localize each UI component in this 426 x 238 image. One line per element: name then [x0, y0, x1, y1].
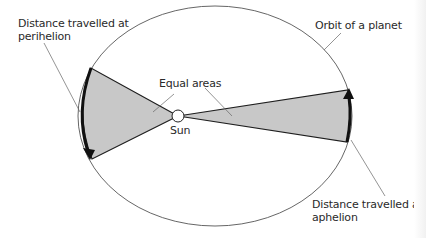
page-edge-shadow — [414, 0, 426, 238]
perihelion-label-line2: perihelion — [18, 31, 71, 43]
aphelion-sector — [178, 90, 350, 142]
leader-aphelion — [351, 140, 385, 196]
sun-icon — [172, 110, 184, 122]
equal-areas-label: Equal areas — [159, 78, 221, 90]
leader-orbit — [324, 33, 341, 50]
leader-perihelion — [44, 43, 80, 112]
orbit-label: Orbit of a planet — [315, 20, 402, 32]
perihelion-label-line1: Distance travelled at — [18, 18, 129, 30]
sun-label: Sun — [170, 125, 190, 137]
aphelion-label-line2: aphelion — [312, 212, 358, 224]
aphelion-label-line1: Distance travelled at — [312, 199, 423, 211]
